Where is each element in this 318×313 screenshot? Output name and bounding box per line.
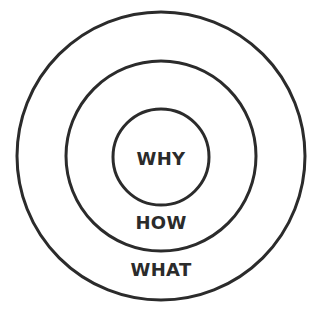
golden-circle-diagram: WHY HOW WHAT [0,0,318,313]
how-label: HOW [101,212,221,233]
why-label: WHY [101,148,221,169]
what-label: WHAT [101,259,221,280]
